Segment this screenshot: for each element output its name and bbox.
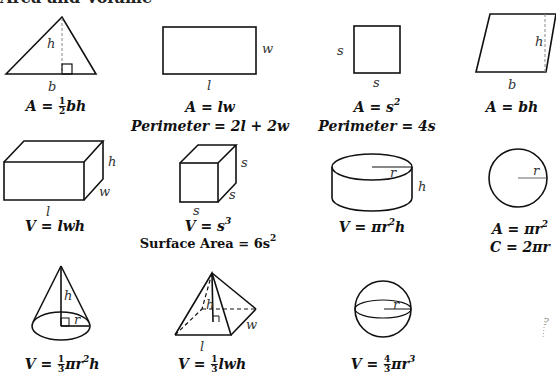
cylinder-h-label: h bbox=[418, 180, 426, 193]
circle-shape bbox=[489, 149, 547, 207]
fraction-denominator: 3 bbox=[384, 365, 390, 374]
pyramid-h-label: h bbox=[206, 298, 214, 311]
exponent: 2 bbox=[394, 97, 400, 107]
cube-surface-area-formula: Surface Area = 6s2 bbox=[140, 237, 277, 250]
prism-volume-formula: V = lwh bbox=[25, 219, 85, 233]
circle-circumference-formula: C = 2πr bbox=[490, 240, 550, 254]
exponent: 3 bbox=[225, 216, 231, 226]
formula-rhs: πr bbox=[391, 356, 409, 372]
exponent: 2 bbox=[270, 233, 276, 243]
prism-h-label: h bbox=[108, 155, 116, 168]
cone-r-label: r bbox=[74, 313, 80, 326]
formula-rhs: h bbox=[395, 219, 405, 235]
stray-mark-label: ? bbox=[544, 318, 549, 327]
sphere-r-label: r bbox=[393, 298, 399, 311]
square-s-left-label: s bbox=[337, 44, 344, 57]
rectangle-area-formula: A = lw bbox=[185, 100, 235, 114]
sphere-shape bbox=[355, 281, 411, 337]
fraction: 13 bbox=[58, 355, 64, 374]
triangle-b-label: b bbox=[48, 80, 56, 93]
cylinder-r-label: r bbox=[390, 166, 396, 179]
cube-volume-formula: V = s3 bbox=[185, 219, 232, 233]
cube-s-bottom-label: s bbox=[193, 204, 200, 217]
formula-lhs: A = s bbox=[354, 99, 394, 115]
formula-lhs: A = πr bbox=[492, 221, 542, 237]
triangle-h-label: h bbox=[47, 37, 55, 50]
fraction: 12 bbox=[59, 97, 65, 116]
rectangular-prism-shape bbox=[4, 141, 103, 200]
triangle-area-formula: A = 12bh bbox=[26, 97, 87, 116]
rectangle-l-label: l bbox=[207, 79, 211, 92]
fraction-denominator: 3 bbox=[211, 365, 217, 374]
formula-rhs: πr bbox=[65, 356, 83, 372]
formula-rhs: lwh bbox=[219, 356, 247, 372]
pyramid-shape bbox=[175, 273, 256, 335]
cylinder-shape bbox=[332, 154, 412, 211]
fraction: 43 bbox=[384, 355, 390, 374]
circle-r-label: r bbox=[533, 164, 539, 177]
cylinder-volume-formula: V = πr2h bbox=[339, 220, 405, 234]
cube-s-depth-label: s bbox=[229, 188, 236, 201]
sphere-volume-formula: V = 43πr3 bbox=[351, 355, 416, 374]
parallelogram-area-formula: A = bh bbox=[486, 100, 538, 114]
prism-l-label: l bbox=[46, 205, 50, 218]
formula-lhs: V = bbox=[178, 356, 210, 372]
formula-lhs: Surface Area = 6s bbox=[140, 236, 270, 251]
formula-lhs: A = bbox=[26, 98, 58, 114]
cube-s-right-label: s bbox=[241, 156, 248, 169]
rectangle-w-label: w bbox=[262, 42, 273, 55]
fraction-denominator: 3 bbox=[58, 365, 64, 374]
parallelogram-b-label: b bbox=[508, 78, 516, 91]
shapes-canvas bbox=[0, 0, 556, 377]
square-shape bbox=[354, 26, 400, 73]
pyramid-volume-formula: V = 13lwh bbox=[178, 355, 246, 374]
square-perimeter-formula: Perimeter = 4s bbox=[318, 119, 435, 133]
parallelogram-shape bbox=[476, 14, 556, 72]
square-s-bottom-label: s bbox=[373, 76, 380, 89]
cube-shape bbox=[180, 145, 236, 202]
formula-lhs: V = πr bbox=[339, 219, 389, 235]
cone-shape bbox=[32, 266, 90, 340]
formula-lhs: V = s bbox=[185, 218, 225, 234]
formula-lhs: V = bbox=[351, 356, 383, 372]
fraction-denominator: 2 bbox=[59, 107, 65, 116]
cone-h-label: h bbox=[64, 289, 72, 302]
formula-lhs: V = bbox=[25, 356, 57, 372]
formula-rhs: bh bbox=[66, 98, 86, 114]
exponent: 2 bbox=[542, 219, 548, 229]
prism-w-label: w bbox=[99, 185, 110, 198]
square-area-formula: A = s2 bbox=[354, 100, 401, 114]
rectangle-shape bbox=[163, 27, 256, 74]
parallelogram-h-label: h bbox=[535, 35, 543, 48]
circle-area-formula: A = πr2 bbox=[492, 222, 548, 236]
cone-volume-formula: V = 13πr2h bbox=[25, 355, 100, 374]
pyramid-l-label: l bbox=[200, 340, 204, 353]
fraction: 13 bbox=[211, 355, 217, 374]
exponent: 3 bbox=[409, 354, 415, 364]
formula-rhs2: h bbox=[89, 356, 99, 372]
pyramid-w-label: w bbox=[246, 318, 257, 331]
rectangle-perimeter-formula: Perimeter = 2l + 2w bbox=[131, 119, 289, 133]
